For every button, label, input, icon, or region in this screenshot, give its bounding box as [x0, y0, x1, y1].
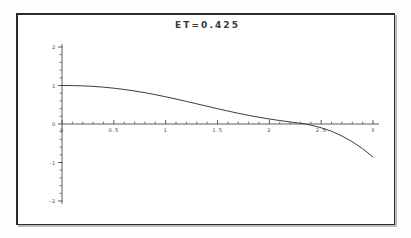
screenshot-root: ET=0.425 00.511.522.53-2-1012 — [0, 0, 411, 238]
x-tick-label: 0 — [60, 127, 64, 133]
y-tick-label: 1 — [52, 83, 56, 89]
plot-area: ET=0.425 00.511.522.53-2-1012 — [18, 15, 397, 227]
y-tick-label: -1 — [49, 160, 56, 166]
x-tick-label: 2 — [267, 127, 271, 133]
figure-frame: ET=0.425 00.511.522.53-2-1012 — [16, 13, 395, 225]
x-tick-label: 3 — [371, 127, 375, 133]
x-tick-label: 1.5 — [212, 127, 223, 133]
x-tick-label: 0.5 — [109, 127, 120, 133]
x-tick-label: 1 — [164, 127, 168, 133]
y-tick-label: -2 — [49, 198, 56, 204]
y-tick-label: 2 — [52, 44, 56, 50]
y-tick-label: 0 — [52, 121, 56, 127]
line-chart-svg: 00.511.522.53-2-1012 — [18, 15, 397, 227]
